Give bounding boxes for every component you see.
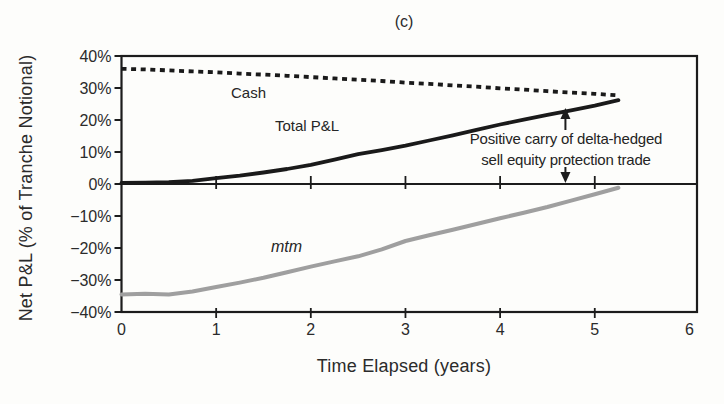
annotation-text: Positive carry of delta-hedged sell equi… <box>452 128 680 170</box>
x-tick-label-0: 0 <box>107 320 137 340</box>
annotation-line-1: Positive carry of delta-hedged <box>452 128 680 149</box>
y-tick-label--10: −10% <box>50 207 112 227</box>
mtm-series-label: mtm <box>271 238 302 256</box>
chart-title: (c) <box>382 13 426 31</box>
x-tick-label-3: 3 <box>390 320 420 340</box>
x-tick-label-6: 6 <box>674 320 704 340</box>
cash-line <box>122 69 619 96</box>
mtm-line <box>122 188 619 295</box>
annotation-down-arrowhead <box>560 172 570 183</box>
total-pnl-series-label: Total P&L <box>275 117 339 134</box>
figure-container: (c) Net P&L (% of Tranche Notional) Time… <box>0 0 724 404</box>
x-axis-title: Time Elapsed (years) <box>254 356 554 377</box>
y-tick-label-30: 30% <box>50 79 112 99</box>
y-tick-label--30: −30% <box>50 271 112 291</box>
x-tick-label-5: 5 <box>580 320 610 340</box>
y-tick-label-0: 0% <box>50 175 112 195</box>
annotation-line-2: sell equity protection trade <box>452 149 680 170</box>
x-tick-label-4: 4 <box>485 320 515 340</box>
y-tick-label-20: 20% <box>50 111 112 131</box>
y-axis-title: Net P&L (% of Tranche Notional) <box>16 23 40 353</box>
x-tick-label-1: 1 <box>201 320 231 340</box>
x-tick-label-2: 2 <box>296 320 326 340</box>
y-tick-label-10: 10% <box>50 143 112 163</box>
y-tick-label--20: −20% <box>50 239 112 259</box>
y-tick-label--40: −40% <box>50 303 112 323</box>
y-tick-label-40: 40% <box>50 47 112 67</box>
cash-series-label: Cash <box>231 84 266 101</box>
